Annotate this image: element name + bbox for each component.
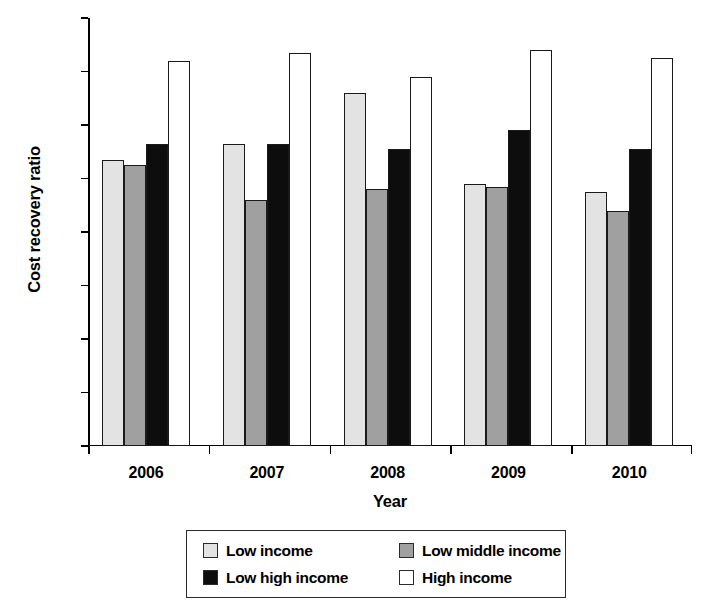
bar (607, 211, 629, 446)
y-axis-tick (81, 392, 88, 394)
legend-label: Low high income (226, 569, 348, 587)
legend-swatch-icon (203, 570, 218, 585)
legend-entry-high-income: High income (399, 569, 512, 587)
legend-row: Low income Low middle income (203, 537, 565, 564)
y-axis-tick (81, 285, 88, 287)
bar (530, 50, 552, 446)
y-axis-tick (81, 124, 88, 126)
x-axis-title: Year (88, 492, 692, 511)
y-axis-tick (81, 445, 88, 447)
legend-label: Low income (226, 542, 313, 560)
x-axis-tick (691, 446, 693, 454)
y-axis-line (88, 18, 90, 446)
bar (289, 53, 311, 446)
bar (651, 58, 673, 446)
y-axis-title: Cost recovery ratio (25, 90, 44, 350)
bar (585, 192, 607, 446)
chart-legend: Low income Low middle income Low high in… (186, 530, 566, 598)
x-axis-tick (450, 446, 452, 454)
bar (223, 144, 245, 446)
bar (245, 200, 267, 446)
legend-label: Low middle income (422, 542, 561, 560)
x-axis-tick-label: 2006 (101, 464, 191, 482)
legend-row: Low high income High income (203, 564, 565, 591)
x-axis-tick (571, 446, 573, 454)
bar (102, 160, 124, 446)
y-axis-tick (81, 231, 88, 233)
bar (267, 144, 289, 446)
x-axis-tick-label: 2009 (463, 464, 553, 482)
x-axis-tick-label: 2008 (343, 464, 433, 482)
y-axis-tick (81, 71, 88, 73)
legend-label: High income (422, 569, 512, 587)
bar (366, 189, 388, 446)
y-axis-tick (81, 338, 88, 340)
legend-swatch-icon (399, 570, 414, 585)
x-axis-tick (209, 446, 211, 454)
legend-entry-low-middle-income: Low middle income (399, 542, 561, 560)
bar (508, 130, 530, 446)
bar (344, 93, 366, 446)
x-axis-tick (330, 446, 332, 454)
y-axis-tick (81, 178, 88, 180)
plot-area: 00.20.40.60.81.01.21.41.6 20062007200820… (88, 18, 692, 446)
legend-entry-low-income: Low income (203, 542, 399, 560)
x-axis-tick-label: 2007 (222, 464, 312, 482)
bar (410, 77, 432, 446)
legend-swatch-icon (203, 543, 218, 558)
bar (168, 61, 190, 446)
bar-chart-figure: Cost recovery ratio 00.20.40.60.81.01.21… (0, 0, 702, 605)
bar (388, 149, 410, 446)
bar (464, 184, 486, 446)
legend-entry-low-high-income: Low high income (203, 569, 399, 587)
y-axis-tick (81, 17, 88, 19)
bar (124, 165, 146, 446)
x-axis-tick (88, 446, 90, 454)
bar (146, 144, 168, 446)
bar (486, 187, 508, 446)
bar (629, 149, 651, 446)
legend-swatch-icon (399, 543, 414, 558)
x-axis-tick-label: 2010 (584, 464, 674, 482)
